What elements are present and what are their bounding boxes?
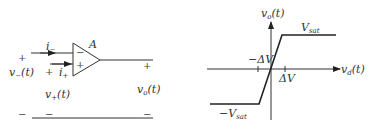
minus-sign-vo: − [143, 109, 151, 120]
input-minus-voltage-label: v−(t) [9, 66, 34, 80]
x-axis-label: vd(t) [341, 63, 365, 77]
pos-delta-v-label: ΔV [278, 72, 296, 85]
minus-sign-vplus: − [45, 109, 53, 120]
vsat-neg-label: −Vsat [219, 107, 247, 121]
input-plus-voltage-label: v+(t) [45, 88, 70, 102]
current-plus-label: i+ [59, 66, 69, 80]
minus-sign-vminus: − [18, 109, 26, 120]
opamp-circuit: − + A i− i+ + v−(t) − + v+(t) − + vo(t) … [9, 38, 160, 120]
output-voltage-label: vo(t) [137, 83, 160, 97]
neg-delta-v-label: −ΔV [248, 53, 274, 66]
plus-sign-vo: + [143, 60, 151, 71]
plus-sign-vminus: + [18, 52, 26, 63]
plus-sign-vplus: + [45, 66, 53, 77]
amplifier-label: A [88, 38, 97, 51]
opamp-minus-terminal: − [76, 47, 84, 58]
current-minus-label: i− [46, 40, 56, 54]
y-axis-label: vo(t) [261, 7, 284, 21]
vsat-pos-label: Vsat [301, 21, 320, 35]
diagram-canvas: − + A i− i+ + v−(t) − + v+(t) − + vo(t) … [0, 0, 369, 132]
transfer-characteristic-chart: vo(t) vd(t) −ΔV ΔV Vsat −Vsat [207, 7, 365, 121]
opamp-plus-terminal: + [76, 59, 84, 70]
